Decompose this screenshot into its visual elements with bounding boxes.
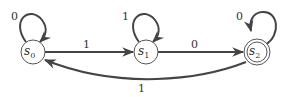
label-s2-s2: 0	[236, 10, 243, 23]
label-s0-s0: 0	[11, 10, 18, 23]
diagram-canvas: 0 1 1 0 0 1 s0 s1 s2	[0, 0, 286, 97]
transition-s0-s0	[20, 14, 46, 42]
label-s2-s0: 1	[138, 82, 145, 95]
state-s0: s0	[21, 40, 45, 64]
state-diagram: 0 1 1 0 0 1 s0 s1 s2	[0, 0, 286, 97]
transition-s1-s1	[133, 14, 159, 42]
state-s2-accepting: s2	[244, 39, 270, 65]
state-s1: s1	[134, 40, 158, 64]
label-s1-s2: 0	[191, 38, 198, 51]
label-s0-s1: 1	[83, 38, 90, 51]
label-s1-s1: 1	[122, 10, 129, 23]
